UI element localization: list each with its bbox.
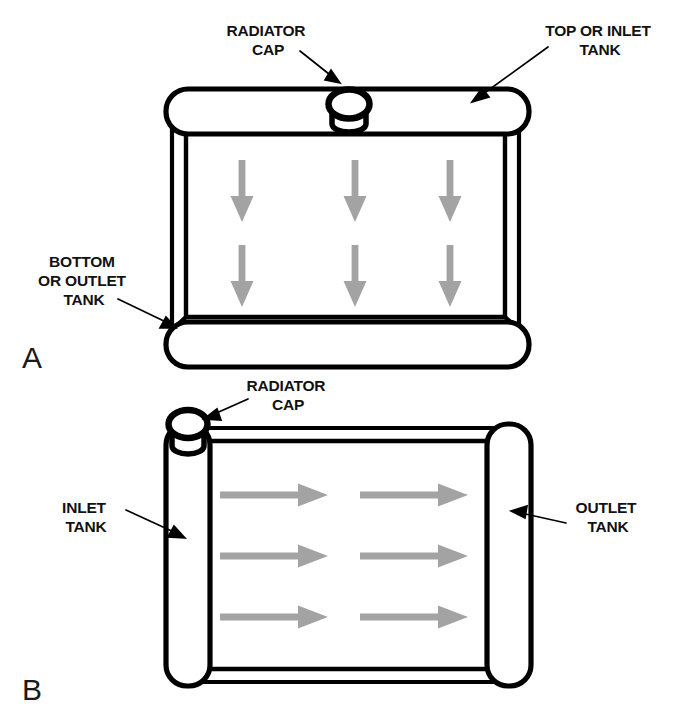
- radiator-cap-top: [329, 90, 370, 119]
- panel-a-core: [172, 118, 519, 330]
- inlet-tank: [166, 424, 210, 686]
- radiator-flow-figure: RADIATOR CAP TOP OR INLET TANK BOTTOM OR…: [0, 0, 678, 718]
- core-outer-body: [172, 118, 519, 330]
- inlet-tank-body: [166, 424, 210, 686]
- outlet-tank: [487, 424, 531, 686]
- radiator-cap-a: [329, 90, 370, 133]
- panel-letter-b: B: [22, 673, 42, 706]
- bottom-outlet-tank: [166, 322, 529, 367]
- radiator-cap-top: [169, 410, 208, 438]
- bottom-outlet-tank-body: [166, 322, 529, 367]
- radiator-cap-b: [169, 410, 208, 454]
- panel-letter-a: A: [22, 341, 42, 374]
- outlet-tank-body: [487, 424, 531, 686]
